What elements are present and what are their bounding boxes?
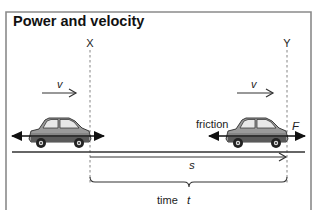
friction-label: friction	[196, 118, 228, 130]
car-at-y	[226, 118, 288, 148]
time-symbol: t	[187, 194, 191, 206]
diagram-svg: X Y v v friction F s time t	[0, 0, 317, 210]
diagram-frame	[6, 12, 311, 210]
marker-label-y: Y	[283, 37, 291, 49]
marker-label-x: X	[86, 37, 94, 49]
force-label-f: F	[292, 120, 300, 132]
time-label: time	[157, 194, 178, 206]
distance-label: s	[189, 159, 195, 171]
time-brace	[90, 177, 287, 187]
velocity-label-2: v	[251, 78, 258, 90]
velocity-label-1: v	[57, 78, 64, 90]
car-at-x	[29, 118, 91, 148]
diagram-canvas: X Y v v friction F s time t Power and v	[0, 0, 317, 210]
diagram-title: Power and velocity	[13, 13, 144, 29]
